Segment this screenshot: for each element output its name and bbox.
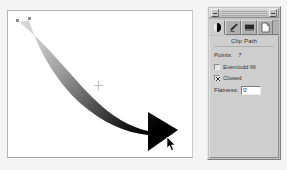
tab-page[interactable] — [257, 20, 273, 35]
points-label: Points: — [214, 52, 232, 58]
even-odd-fill-label: Even/odd fill — [223, 64, 256, 70]
flatness-input[interactable] — [241, 86, 261, 95]
application-window: Clip Path Points: 7 Even/odd fill Closed… — [0, 0, 287, 170]
pen-nib-icon — [228, 22, 239, 33]
palette-tab-strip — [208, 19, 280, 36]
points-row: Points: 7 — [214, 50, 274, 60]
tab-gradient[interactable] — [209, 20, 225, 35]
document-canvas[interactable] — [7, 10, 193, 158]
closed-checkbox[interactable] — [214, 75, 220, 81]
palette-titlebar[interactable] — [209, 8, 279, 18]
closed-label: Closed — [223, 75, 242, 81]
even-odd-fill-checkbox[interactable] — [214, 64, 220, 70]
clip-path-palette: Clip Path Points: 7 Even/odd fill Closed… — [207, 6, 281, 160]
titlebar-grip[interactable] — [221, 10, 267, 16]
gradient-circle-icon — [212, 22, 223, 33]
collapse-button[interactable] — [211, 9, 219, 17]
flatness-label: Flatness: — [214, 87, 238, 93]
points-value: 7 — [238, 52, 241, 58]
curved-gradient-arrow[interactable] — [8, 11, 193, 158]
tab-swatch[interactable] — [241, 20, 257, 35]
arrow-shape[interactable] — [19, 20, 178, 151]
page-icon — [260, 22, 271, 33]
tab-pen[interactable] — [225, 20, 241, 35]
panel-title: Clip Path — [214, 37, 274, 47]
filled-rect-icon — [244, 22, 255, 33]
closed-checkbox-row[interactable]: Closed — [214, 73, 274, 83]
anchor-point[interactable] — [16, 19, 19, 22]
clip-path-panel-body: Clip Path Points: 7 Even/odd fill Closed… — [209, 36, 279, 158]
tab-strip-filler — [273, 20, 279, 35]
close-button[interactable] — [269, 9, 277, 17]
anchor-point[interactable] — [28, 17, 31, 20]
flatness-row: Flatness: — [214, 85, 274, 95]
even-odd-fill-checkbox-row[interactable]: Even/odd fill — [214, 62, 274, 72]
